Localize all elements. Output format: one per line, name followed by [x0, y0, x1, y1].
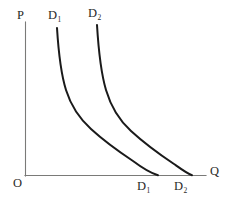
- y-axis-label: P: [17, 9, 24, 22]
- curve-bottom-label-d1: D1: [137, 180, 150, 193]
- curve-bottom-label-d2: D2: [174, 180, 187, 193]
- origin-label: O: [13, 177, 22, 190]
- curve-top-label-d1-subscript: 1: [57, 15, 61, 24]
- demand-curve-d1: [57, 28, 158, 175]
- plot-area: [0, 0, 230, 203]
- curve-bottom-label-d2-subscript: 2: [183, 186, 187, 195]
- curve-bottom-label-d2-letter: D: [174, 179, 183, 193]
- curve-top-label-d2-letter: D: [88, 6, 97, 20]
- x-axis-label: Q: [210, 165, 219, 178]
- curve-top-label-d1: D1: [48, 9, 61, 22]
- curve-bottom-label-d1-letter: D: [137, 179, 146, 193]
- curve-top-label-d2-subscript: 2: [97, 13, 101, 22]
- demand-curve-d2: [97, 25, 192, 175]
- demand-curve-figure: P Q O D1 D2 D1 D2: [0, 0, 230, 203]
- curve-bottom-label-d1-subscript: 1: [146, 186, 150, 195]
- curve-top-label-d2: D2: [88, 7, 101, 20]
- curve-top-label-d1-letter: D: [48, 8, 57, 22]
